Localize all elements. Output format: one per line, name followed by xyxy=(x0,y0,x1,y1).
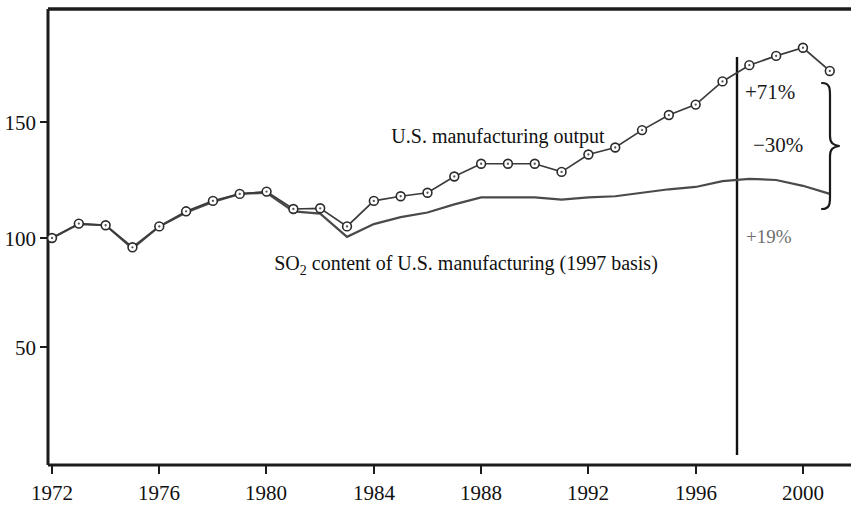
series-markers-output xyxy=(48,43,835,251)
data-point-center xyxy=(131,246,133,248)
series-line-so2 xyxy=(52,179,830,249)
y-tick-label-150: 150 xyxy=(5,111,37,135)
line-chart: 150 100 50 1972 1976 1980 1984 1988 1992… xyxy=(0,0,851,512)
gap-brace xyxy=(822,83,839,209)
data-point-center xyxy=(453,175,455,177)
y-axis-tick-labels: 150 100 50 xyxy=(5,111,37,360)
data-point-center xyxy=(426,192,428,194)
x-tick-label-1996: 1996 xyxy=(675,481,717,505)
x-tick-label-1988: 1988 xyxy=(460,481,502,505)
data-point-center xyxy=(185,210,187,212)
data-point-center xyxy=(78,222,80,224)
data-point-center xyxy=(721,80,723,82)
data-point-center xyxy=(104,224,106,226)
x-tick-label-1984: 1984 xyxy=(353,481,396,505)
output-series-label: U.S. manufacturing output xyxy=(391,125,605,148)
series-line-output xyxy=(52,48,830,248)
data-point-center xyxy=(346,225,348,227)
annotation-so2-growth: +19% xyxy=(746,226,792,247)
data-point-center xyxy=(614,146,616,148)
data-point-center xyxy=(265,190,267,192)
data-point-center xyxy=(560,171,562,173)
x-tick-label-2000: 2000 xyxy=(782,481,824,505)
data-point-center xyxy=(158,225,160,227)
x-axis-tick-labels: 1972 1976 1980 1984 1988 1992 1996 2000 xyxy=(31,481,824,505)
x-tick-label-1976: 1976 xyxy=(138,481,180,505)
data-point-center xyxy=(695,103,697,105)
data-point-center xyxy=(587,153,589,155)
x-tick-label-1972: 1972 xyxy=(31,481,73,505)
x-tick-label-1980: 1980 xyxy=(245,481,287,505)
data-point-center xyxy=(51,237,53,239)
x-tick-label-1992: 1992 xyxy=(567,481,609,505)
y-tick-label-50: 50 xyxy=(15,336,36,360)
data-point-center xyxy=(239,193,241,195)
data-point-center xyxy=(829,70,831,72)
chart-figure: 150 100 50 1972 1976 1980 1984 1988 1992… xyxy=(0,0,851,512)
annotation-output-growth: +71% xyxy=(745,80,795,104)
so2-series-label: SO2 content of U.S. manufacturing (1997 … xyxy=(274,252,658,278)
data-point-center xyxy=(775,55,777,57)
y-tick-label-100: 100 xyxy=(5,227,37,251)
data-point-center xyxy=(212,200,214,202)
data-point-center xyxy=(748,64,750,66)
data-point-center xyxy=(480,163,482,165)
data-point-center xyxy=(668,114,670,116)
data-point-center xyxy=(319,207,321,209)
data-point-center xyxy=(641,129,643,131)
annotation-gap-difference: −30% xyxy=(753,133,803,157)
data-point-center xyxy=(507,163,509,165)
data-point-center xyxy=(400,195,402,197)
data-point-center xyxy=(292,208,294,210)
data-point-center xyxy=(534,163,536,165)
data-point-center xyxy=(802,47,804,49)
data-point-center xyxy=(373,200,375,202)
